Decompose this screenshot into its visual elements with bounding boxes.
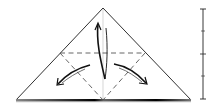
diagram-canvas — [0, 0, 219, 111]
scale-bar — [200, 9, 206, 99]
origami-diagram — [0, 0, 219, 111]
paper-triangle — [16, 8, 191, 100]
